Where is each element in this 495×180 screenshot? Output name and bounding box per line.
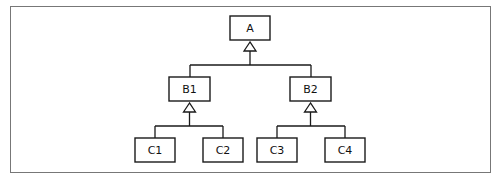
node-b2: B2 bbox=[290, 77, 331, 101]
node-c2-label: C2 bbox=[216, 144, 231, 157]
inheritance-arrow-icon bbox=[244, 42, 256, 51]
class-hierarchy-diagram: A B1 B2 C1 C2 C3 C4 bbox=[0, 0, 495, 180]
inheritance-arrow-icon bbox=[305, 103, 317, 112]
node-c1: C1 bbox=[135, 138, 175, 162]
node-c3-label: C3 bbox=[270, 144, 285, 157]
node-b1: B1 bbox=[169, 77, 210, 101]
node-a: A bbox=[230, 16, 270, 40]
node-c4-label: C4 bbox=[338, 144, 353, 157]
node-a-label: A bbox=[246, 22, 254, 35]
node-c2: C2 bbox=[203, 138, 243, 162]
node-b2-label: B2 bbox=[303, 83, 318, 96]
node-c1-label: C1 bbox=[148, 144, 163, 157]
node-b1-label: B1 bbox=[182, 83, 197, 96]
inheritance-arrow-icon bbox=[184, 103, 196, 112]
node-c3: C3 bbox=[257, 138, 297, 162]
node-c4: C4 bbox=[325, 138, 365, 162]
